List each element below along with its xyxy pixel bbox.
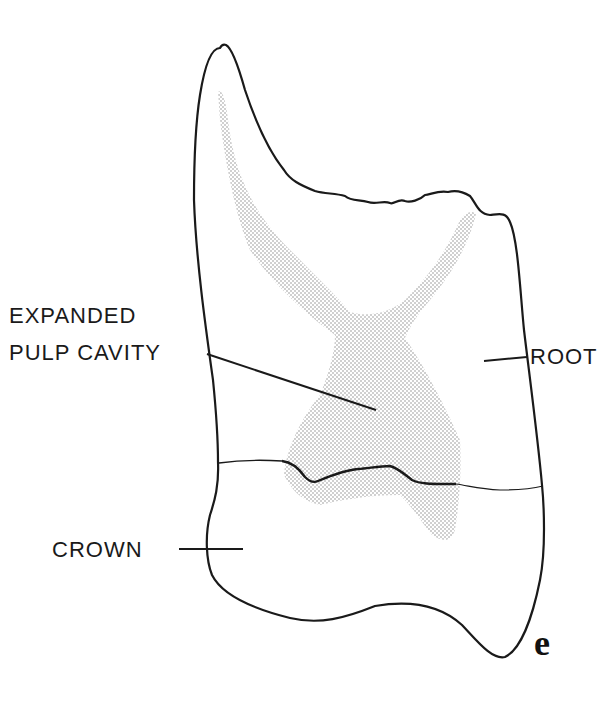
pulp-cavity-region — [218, 91, 476, 540]
crown-root-junction-line — [219, 460, 282, 463]
crown-root-junction-line-thin — [456, 484, 543, 490]
tooth-diagram: EXPANDED PULP CAVITY ROOT CROWN e — [0, 0, 613, 702]
label-crown: CROWN — [52, 537, 143, 563]
label-root: ROOT — [530, 344, 598, 370]
figure-letter: e — [534, 622, 550, 664]
label-expanded: EXPANDED — [9, 303, 136, 329]
label-pulp-cavity: PULP CAVITY — [9, 340, 161, 366]
root-leader — [484, 357, 527, 361]
